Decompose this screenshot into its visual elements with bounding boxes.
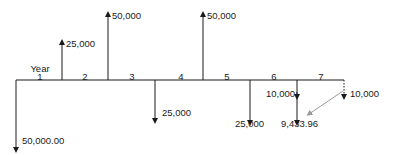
period-label-3: 3 [122, 72, 142, 82]
period-label-7: 7 [311, 72, 331, 82]
amount-label-year-4: 50,000 [207, 11, 236, 21]
period-label-2: 2 [75, 72, 95, 82]
amount-label-year-6-top: 10,000 [266, 89, 295, 99]
discount-arrow [309, 91, 343, 114]
period-label-1: 1 [30, 72, 50, 82]
period-label-4: 4 [171, 72, 191, 82]
cash-flow-diagram [0, 0, 393, 155]
amount-label-year-1: 25,000 [66, 39, 95, 49]
amount-label-year-0: 50,000.00 [22, 136, 64, 146]
amount-label-year-2: 50,000 [112, 11, 141, 21]
period-label-6: 6 [264, 72, 284, 82]
amount-label-year-7: 10,000 [350, 89, 379, 99]
period-label-5: 5 [217, 72, 237, 82]
amount-label-year-3: 25,000 [162, 108, 191, 118]
amount-label-year-5: 25,000 [235, 119, 264, 129]
amount-label-year-6-pv: 9,433.96 [281, 119, 318, 129]
